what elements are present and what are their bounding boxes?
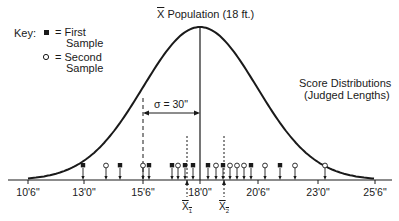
key-second-line2: Sample [66,62,103,74]
first-sample-marker-icon [147,163,151,167]
population-label-text: Population (18 ft.) [164,8,254,20]
key-open-circle-icon [43,54,48,59]
second-sample-marker-icon [242,163,247,168]
second-sample-marker-icon [104,163,109,168]
first-sample-marker-icon [249,163,253,167]
axis-tick-label: 10'6" [16,186,39,198]
first-sample-marker-icon [206,163,210,167]
key-first-line2: Sample [66,37,103,49]
sigma-arrowhead-right [194,111,200,116]
first-sample-marker-icon [278,163,282,167]
first-sample-marker-icon [221,163,225,167]
first-sample-marker-icon [118,163,122,167]
curve-label-line2: (Judged Lengths) [304,89,390,101]
second-sample-marker-icon [263,163,268,168]
sigma-label: σ = 30" [154,98,188,110]
population-label: X Population (18 ft.) [157,8,254,20]
curve-label-line1: Score Distributions [299,77,391,89]
second-sample-marker-icon [141,163,146,168]
first-sample-marker-icon [183,163,187,167]
second-sample-marker-icon [323,163,328,168]
second-sample-marker-icon [235,163,240,168]
first-sample-marker-icon [81,163,85,167]
normal-curve [28,27,374,179]
second-sample-marker-icon [228,163,233,168]
sample-mean-arrow-icon [185,180,189,185]
first-sample-marker-icon [191,163,195,167]
axis-tick-label: 18'0" [188,186,211,198]
axis-tick-label: 20'6" [246,186,269,198]
second-sample-marker-icon [176,163,181,168]
axis-tick-label: 13'0" [72,186,95,198]
axis-tick-label: 23'0" [306,186,329,198]
sample-mean-label-1: X1 [182,201,192,214]
second-sample-marker-icon [293,163,298,168]
key-filled-square-icon [44,30,49,35]
first-sample-marker-icon [170,163,174,167]
axis-tick-label: 15'6" [131,186,154,198]
second-sample-marker-icon [214,163,219,168]
sigma-arrowhead-left [143,111,149,116]
key-label: Key: [14,27,36,39]
sample-mean-arrow-icon [222,180,226,185]
sample-mean-label-2: X2 [219,201,229,214]
axis-tick-label: 25'6" [363,186,386,198]
